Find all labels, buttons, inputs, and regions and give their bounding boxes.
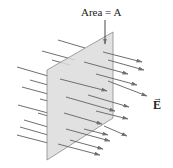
flux-diagram [0, 0, 173, 168]
surface-plane [47, 32, 113, 160]
area-label: Area = A [81, 6, 121, 18]
vector-arrow-icon: → [153, 93, 162, 103]
electric-field-label: → E [153, 98, 161, 113]
